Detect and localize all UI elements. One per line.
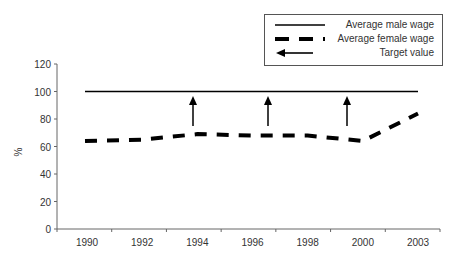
x-tick-label: 1992 [131,237,154,248]
x-tick-label: 1998 [297,237,320,248]
x-tick-label: 2003 [407,237,430,248]
y-tick-label: 60 [40,142,52,153]
legend-label: Target value [380,47,434,58]
y-tick-label: 0 [45,224,51,235]
legend-label: Average female wage [337,33,434,44]
legend-item-male: Average male wage [265,19,442,33]
y-tick-label: 20 [40,197,52,208]
x-tick-label: 1996 [241,237,264,248]
y-ticks: 020406080100120 [34,59,57,235]
x-tick-label: 1994 [186,237,209,248]
y-tick-label: 40 [40,169,52,180]
solid-line-icon [273,19,333,31]
female-wage-line [85,114,418,142]
y-tick-label: 80 [40,114,52,125]
legend: Average male wage Average female wage Ta… [264,14,443,66]
legend-item-female: Average female wage [265,33,442,47]
x-tick-label: 1990 [76,237,99,248]
target-arrows [189,96,351,126]
y-axis-title: % [13,147,24,156]
y-tick-label: 120 [34,59,51,70]
legend-item-target: Target value [265,47,442,61]
legend-label: Average male wage [346,19,434,30]
x-ticks: 1990199219941996199820002003 [57,229,440,248]
dashed-line-icon [273,33,333,45]
y-tick-label: 100 [34,87,51,98]
left-arrow-icon [273,47,333,59]
x-tick-label: 2000 [352,237,375,248]
